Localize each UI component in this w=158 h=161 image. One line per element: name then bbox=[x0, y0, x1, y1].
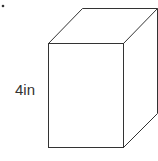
bullet-dot bbox=[2, 5, 5, 8]
top-face bbox=[49, 9, 158, 44]
front-face bbox=[49, 44, 124, 148]
right-face bbox=[124, 9, 158, 148]
height-label: 4in bbox=[15, 82, 35, 97]
